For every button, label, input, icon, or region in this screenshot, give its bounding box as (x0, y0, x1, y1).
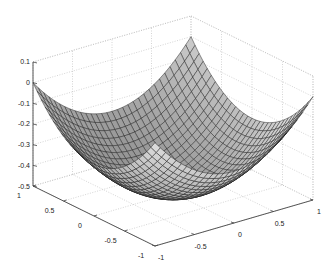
x-tick (152, 245, 155, 246)
z-tick (33, 124, 37, 125)
y-tick-label: 1 (17, 192, 21, 199)
surface-face (33, 83, 42, 97)
y-tick (64, 200, 67, 201)
x-tick (310, 199, 313, 200)
x-tick-label: -0.5 (194, 243, 206, 250)
z-tick (33, 165, 37, 166)
surface-mesh (33, 37, 313, 200)
z-tick (33, 62, 37, 63)
surface-plot: -1-0.500.51-1-0.500.51-0.5-0.4-0.3-0.2-0… (0, 0, 335, 268)
x-tick (231, 222, 234, 223)
y-tick (155, 245, 158, 246)
z-tick-label: -0.4 (18, 162, 30, 169)
z-tick-label: 0 (26, 79, 30, 86)
y-tick-label: 0 (78, 222, 82, 229)
x-tick (271, 211, 274, 212)
y-tick-label: -1 (138, 252, 144, 259)
x-tick-label: -1 (158, 254, 164, 261)
x-tick-label: 0.5 (275, 220, 285, 227)
x-tick-label: 1 (317, 208, 321, 215)
z-tick-label: 0.1 (20, 58, 30, 65)
z-tick-label: -0.1 (18, 100, 30, 107)
y-tick (94, 215, 97, 216)
x-tick (192, 234, 195, 235)
z-tick (33, 186, 37, 187)
y-tick-label: -0.5 (104, 237, 116, 244)
z-tick-label: -0.2 (18, 120, 30, 127)
x-tick-label: 0 (238, 231, 242, 238)
z-tick-label: -0.5 (18, 183, 30, 190)
z-tick (33, 103, 37, 104)
z-tick-label: -0.3 (18, 141, 30, 148)
y-tick-label: 0.5 (45, 207, 55, 214)
z-tick (33, 145, 37, 146)
y-tick (125, 230, 128, 231)
